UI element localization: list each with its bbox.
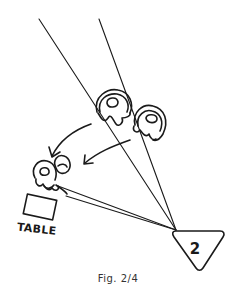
figure-caption: Fig. 2/4: [0, 273, 236, 284]
table: TABLE: [16, 194, 57, 238]
sight-lines: [39, 19, 176, 230]
sight-line-left: [39, 19, 176, 230]
upper-right-figure: [134, 105, 166, 140]
marker-number: 2: [190, 240, 200, 258]
arrows: [49, 124, 130, 164]
position-marker: 2: [173, 231, 224, 270]
sight-line-table-lower: [66, 196, 176, 230]
sight-line-table-upper: [58, 186, 176, 230]
diagram-canvas: TABLE 2: [0, 0, 236, 297]
table-label: TABLE: [16, 221, 57, 238]
arrow-right: [85, 140, 130, 163]
table-rect: [23, 194, 57, 220]
curved-arrow-left: [52, 124, 91, 156]
